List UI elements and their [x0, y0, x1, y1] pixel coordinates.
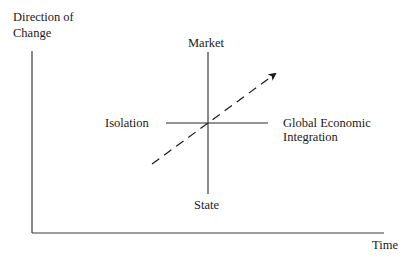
y-axis-label-line1: Direction of	[13, 10, 74, 25]
label-integration: Integration	[283, 130, 338, 145]
label-market: Market	[188, 36, 224, 51]
label-state: State	[194, 198, 219, 213]
y-axis-label-line2: Change	[13, 26, 51, 41]
trend-arrow	[152, 74, 275, 164]
label-global-economic: Global Economic	[283, 116, 371, 131]
x-axis-label: Time	[372, 238, 398, 253]
label-isolation: Isolation	[105, 116, 149, 131]
